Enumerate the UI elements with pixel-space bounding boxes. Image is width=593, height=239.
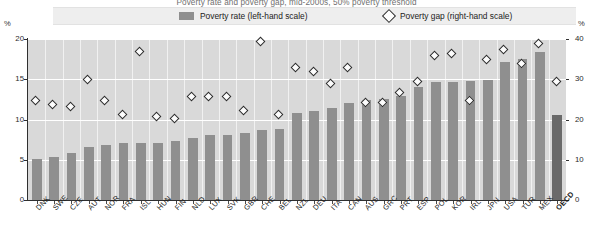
left-axis-unit: % xyxy=(4,19,11,28)
y-tickmark-right xyxy=(566,39,569,40)
gap-marker-usa xyxy=(499,45,509,55)
y-tick-left-15: 15 xyxy=(4,75,24,83)
column-separator xyxy=(306,39,307,200)
column-separator xyxy=(410,39,411,200)
y-tick-right-10: 10 xyxy=(575,156,593,164)
bar-aut xyxy=(84,147,94,200)
column-separator xyxy=(45,39,46,200)
y-tickmark-left xyxy=(24,200,27,201)
bar-oecd xyxy=(552,115,562,200)
bar-fra xyxy=(119,143,129,200)
bar-esp xyxy=(414,87,424,201)
bar-lux xyxy=(205,135,215,200)
chart-figure: Poverty rate and poverty gap, mid-2000s,… xyxy=(0,0,593,239)
column-separator xyxy=(167,39,168,200)
bar-nld xyxy=(188,138,198,200)
bar-ita xyxy=(327,108,337,200)
column-separator xyxy=(236,39,237,200)
column-separator xyxy=(184,39,185,200)
column-separator xyxy=(514,39,515,200)
bar-swatch-icon xyxy=(179,12,194,20)
gap-marker-pol xyxy=(430,51,440,61)
gap-marker-nld xyxy=(187,91,197,101)
column-separator xyxy=(445,39,446,200)
y-tick-right-20: 20 xyxy=(575,116,593,124)
column-separator xyxy=(202,39,203,200)
bar-pol xyxy=(431,82,441,200)
bar-che xyxy=(257,130,267,200)
column-separator xyxy=(358,39,359,200)
gap-marker-mex xyxy=(534,39,544,49)
legend-label-poverty-gap: Poverty gap (right-hand scale) xyxy=(400,11,512,21)
gap-marker-deu xyxy=(308,67,318,77)
y-tickmark-left xyxy=(24,120,27,121)
bar-tur xyxy=(518,59,528,200)
bar-hun xyxy=(153,143,163,200)
bar-swe xyxy=(49,157,59,200)
gap-marker-jpn xyxy=(482,55,492,65)
column-separator xyxy=(149,39,150,200)
diamond-marker-icon xyxy=(382,9,396,23)
y-tickmark-right xyxy=(566,120,569,121)
bar-fin xyxy=(171,141,181,200)
gap-marker-can xyxy=(343,63,353,73)
y-tick-left-20: 20 xyxy=(4,35,24,43)
bar-deu xyxy=(309,111,319,200)
gap-marker-isl xyxy=(135,47,145,57)
chart-title: Poverty rate and poverty gap, mid-2000s,… xyxy=(0,0,593,7)
y-tickmark-right xyxy=(566,160,569,161)
gap-marker-aut xyxy=(82,75,92,85)
y-axis-left-line xyxy=(27,38,28,201)
y-tick-right-40: 40 xyxy=(575,35,593,43)
y-tick-left-5: 5 xyxy=(4,156,24,164)
column-separator xyxy=(254,39,255,200)
column-separator xyxy=(323,39,324,200)
gap-marker-swe xyxy=(48,99,58,109)
bar-cze xyxy=(67,153,77,200)
gap-marker-nor xyxy=(100,95,110,105)
gap-marker-dnk xyxy=(30,95,40,105)
column-separator xyxy=(427,39,428,200)
column-separator xyxy=(462,39,463,200)
column-separator xyxy=(115,39,116,200)
column-separator xyxy=(479,39,480,200)
y-tickmark-right xyxy=(566,79,569,80)
gap-marker-cze xyxy=(65,101,75,111)
column-separator xyxy=(132,39,133,200)
bar-prt xyxy=(396,96,406,200)
bar-mex xyxy=(535,52,545,200)
y-tickmark-left xyxy=(24,160,27,161)
column-separator xyxy=(80,39,81,200)
gap-marker-bel xyxy=(273,109,283,119)
column-separator xyxy=(531,39,532,200)
column-separator xyxy=(288,39,289,200)
column-separator xyxy=(340,39,341,200)
bar-nzl xyxy=(292,113,302,200)
column-separator xyxy=(392,39,393,200)
gridline xyxy=(28,39,566,40)
gap-marker-gbr xyxy=(239,105,249,115)
column-separator xyxy=(219,39,220,200)
legend-label-poverty-rate: Poverty rate (left-hand scale) xyxy=(200,11,308,21)
y-tick-right-30: 30 xyxy=(575,75,593,83)
bar-can xyxy=(344,103,354,200)
gap-marker-fin xyxy=(169,113,179,123)
legend-item-poverty-rate: Poverty rate (left-hand scale) xyxy=(179,10,308,22)
bar-bel xyxy=(275,129,285,200)
column-separator xyxy=(271,39,272,200)
bar-isl xyxy=(136,143,146,200)
bar-usa xyxy=(500,62,510,200)
chart-legend: Poverty rate (left-hand scale) Poverty g… xyxy=(53,7,576,25)
column-separator xyxy=(97,39,98,200)
y-tick-left-0: 0 xyxy=(4,196,24,204)
bar-nor xyxy=(101,145,111,200)
bar-dnk xyxy=(32,159,42,200)
bar-jpn xyxy=(483,80,493,200)
bar-svk xyxy=(223,135,233,200)
y-tickmark-left xyxy=(24,39,27,40)
y-tickmark-left xyxy=(24,79,27,80)
gap-marker-lux xyxy=(204,91,214,101)
gap-marker-kor xyxy=(447,49,457,59)
legend-item-poverty-gap: Poverty gap (right-hand scale) xyxy=(383,10,512,22)
gap-marker-fra xyxy=(117,109,127,119)
